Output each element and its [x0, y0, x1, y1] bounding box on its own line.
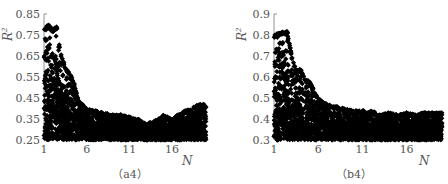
y-tick-label: 0.75 [16, 29, 41, 42]
scatter-points [41, 23, 208, 143]
scatter-points [271, 29, 444, 143]
y-tick-label: 0.8 [253, 29, 271, 42]
x-tick-label: 16 [165, 143, 179, 156]
y-axis-label: R2 [235, 27, 249, 42]
x-tick-label: 16 [400, 143, 414, 156]
scatter-plot-b4: 0.30.40.50.60.70.80.9161116R2N（b4） [224, 0, 448, 184]
x-tick-label: 11 [122, 143, 136, 156]
y-tick-label: 0.65 [16, 50, 41, 63]
x-tick-label: 6 [83, 143, 90, 156]
y-tick-label: 0.35 [16, 113, 41, 126]
x-tick-label: 11 [355, 143, 369, 156]
y-tick-label: 0.5 [253, 92, 271, 105]
y-tick-label: 0.25 [16, 134, 41, 147]
scatter-plot-a4: 0.250.350.450.550.650.750.85161116R2N（a4… [0, 0, 224, 184]
y-tick-label: 0.4 [253, 113, 271, 126]
y-tick-label: 0.45 [16, 92, 41, 105]
chart-panel-b4: 0.30.40.50.60.70.80.9161116R2N（b4） [224, 0, 448, 184]
y-tick-label: 0.3 [253, 134, 271, 147]
x-tick-label: 1 [271, 143, 278, 156]
chart-caption: （b4） [336, 168, 372, 181]
y-tick-label: 0.9 [253, 8, 271, 21]
y-tick-label: 0.7 [253, 50, 271, 63]
y-axis-label: R2 [1, 27, 15, 42]
y-tick-label: 0.55 [16, 71, 41, 84]
x-axis-label: N [181, 154, 193, 168]
x-axis-label: N [418, 154, 430, 168]
chart-caption: （a4） [112, 168, 148, 181]
x-tick-label: 6 [315, 143, 322, 156]
y-tick-label: 0.85 [16, 8, 41, 21]
chart-panel-a4: 0.250.350.450.550.650.750.85161116R2N（a4… [0, 0, 224, 184]
y-tick-label: 0.6 [253, 71, 271, 84]
x-tick-label: 1 [41, 143, 48, 156]
